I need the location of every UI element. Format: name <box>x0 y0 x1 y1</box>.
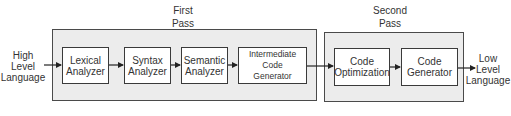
flow-arrows <box>0 0 511 116</box>
